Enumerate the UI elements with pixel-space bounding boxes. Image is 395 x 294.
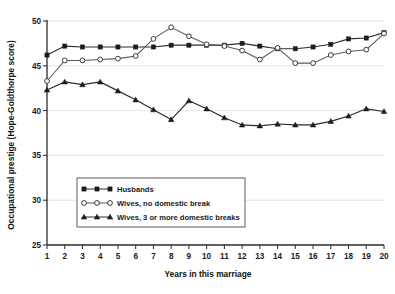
data-point-marker <box>240 41 244 45</box>
x-tick-label: 20 <box>379 252 389 261</box>
x-tick-label: 17 <box>326 252 336 261</box>
data-point-marker <box>151 45 155 49</box>
x-tick-label: 18 <box>344 252 354 261</box>
x-tick-label: 4 <box>98 252 103 261</box>
data-point-marker <box>133 54 138 59</box>
y-axis: 253035404550 <box>32 17 47 250</box>
data-point-marker <box>240 48 245 53</box>
data-point-marker <box>222 44 227 49</box>
x-tick-label: 8 <box>169 252 174 261</box>
x-axis: 1234567891011121314151617181920 <box>45 245 389 261</box>
x-tick-label: 11 <box>220 252 229 261</box>
x-tick-label: 13 <box>255 252 265 261</box>
series-2 <box>44 79 387 128</box>
data-point-marker <box>346 37 350 41</box>
data-point-marker <box>187 43 191 47</box>
data-point-marker <box>186 34 191 39</box>
data-point-marker <box>97 79 103 84</box>
chart-legend: HusbandsWives, no domestic breakWives, 3… <box>77 178 245 227</box>
y-tick-label: 35 <box>32 151 42 160</box>
x-tick-label: 10 <box>202 252 212 261</box>
gridlines <box>47 21 384 200</box>
series-1 <box>45 25 387 84</box>
y-tick-label: 40 <box>32 107 42 116</box>
data-point-marker <box>80 58 85 63</box>
data-point-marker <box>95 187 99 191</box>
plot-series <box>44 25 387 128</box>
data-point-marker <box>151 37 156 42</box>
x-tick-label: 5 <box>116 252 121 261</box>
data-point-marker <box>311 45 315 49</box>
x-tick-label: 15 <box>291 252 301 261</box>
legend-label-0: Husbands <box>117 185 154 194</box>
data-point-marker <box>293 47 297 51</box>
series-line <box>47 33 384 55</box>
data-point-marker <box>108 201 113 206</box>
x-tick-label: 19 <box>362 252 372 261</box>
data-point-marker <box>204 42 209 47</box>
data-point-marker <box>364 36 368 40</box>
x-tick-label: 9 <box>187 252 192 261</box>
y-tick-label: 50 <box>32 17 42 26</box>
data-point-marker <box>311 61 316 66</box>
data-point-marker <box>258 44 262 48</box>
data-point-marker <box>382 31 387 36</box>
data-point-marker <box>364 47 369 52</box>
data-point-marker <box>346 49 351 54</box>
x-tick-label: 12 <box>238 252 248 261</box>
data-point-marker <box>169 25 174 30</box>
series-0 <box>45 31 386 58</box>
data-point-marker <box>363 106 369 111</box>
data-point-marker <box>45 53 49 57</box>
data-point-marker <box>257 57 262 62</box>
data-point-marker <box>108 187 112 191</box>
data-point-marker <box>95 201 100 206</box>
series-line <box>47 82 384 126</box>
y-tick-label: 30 <box>32 196 42 205</box>
legend-label-2: Wives, 3 or more domestic breaks <box>117 213 240 222</box>
x-axis-title: Years in this marriage <box>164 269 251 279</box>
data-point-marker <box>98 45 102 49</box>
data-point-marker <box>293 61 298 66</box>
data-point-marker <box>151 107 157 112</box>
data-point-marker <box>186 98 192 103</box>
legend-label-1: Wives, no domestic break <box>117 199 211 208</box>
data-point-marker <box>329 42 333 46</box>
x-tick-label: 2 <box>62 252 67 261</box>
data-point-marker <box>134 45 138 49</box>
x-tick-label: 1 <box>45 252 50 261</box>
data-point-marker <box>116 56 121 61</box>
data-point-marker <box>82 201 87 206</box>
x-tick-label: 3 <box>80 252 85 261</box>
data-point-marker <box>82 187 86 191</box>
data-point-marker <box>62 79 68 84</box>
y-tick-label: 25 <box>32 241 42 250</box>
data-point-marker <box>80 45 84 49</box>
data-point-marker <box>328 53 333 58</box>
x-tick-label: 16 <box>308 252 318 261</box>
data-point-marker <box>98 57 103 62</box>
chart-canvas: 253035404550 123456789101112131415161718… <box>0 0 395 294</box>
x-tick-label: 14 <box>273 252 283 261</box>
data-point-marker <box>63 44 67 48</box>
data-point-marker <box>169 43 173 47</box>
data-point-marker <box>45 79 50 84</box>
y-tick-label: 45 <box>32 62 42 71</box>
occupational-prestige-chart: 253035404550 123456789101112131415161718… <box>0 0 395 294</box>
x-tick-label: 6 <box>133 252 138 261</box>
y-axis-title: Occupational prestige (Hope-Goldthorpe s… <box>6 40 16 230</box>
x-tick-label: 7 <box>151 252 156 261</box>
data-point-marker <box>275 45 280 50</box>
data-point-marker <box>116 45 120 49</box>
data-point-marker <box>62 58 67 63</box>
